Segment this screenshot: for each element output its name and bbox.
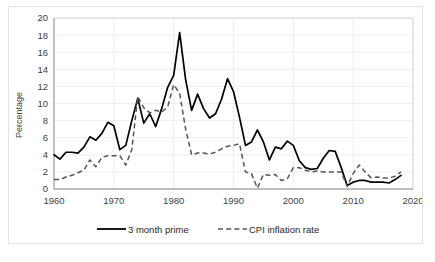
series-line-3-month-prime bbox=[54, 33, 401, 186]
chart-figure: 02468101214161820 1960197019801990200020… bbox=[0, 0, 435, 262]
y-axis-tick-labels: 02468101214161820 bbox=[37, 12, 48, 194]
y-tick-label: 4 bbox=[43, 149, 48, 160]
y-tick-label: 14 bbox=[37, 64, 48, 75]
series-line-cpi-inflation-rate bbox=[54, 85, 401, 188]
legend-label-cpi-inflation-rate: CPI inflation rate bbox=[249, 224, 319, 235]
chart-frame: 02468101214161820 1960197019801990200020… bbox=[8, 6, 423, 244]
y-tick-label: 12 bbox=[37, 81, 48, 92]
legend-label-3-month-prime: 3 month prime bbox=[128, 224, 189, 235]
y-tick-label: 20 bbox=[37, 12, 48, 23]
x-axis-tick-labels: 1960197019801990200020102020 bbox=[43, 195, 422, 206]
data-series-group bbox=[54, 33, 401, 189]
y-tick-label: 10 bbox=[37, 98, 48, 109]
y-tick-label: 18 bbox=[37, 30, 48, 41]
x-tick-label: 1990 bbox=[223, 195, 244, 206]
y-tick-label: 2 bbox=[43, 166, 48, 177]
x-tick-label: 1980 bbox=[163, 195, 184, 206]
y-tick-label: 6 bbox=[43, 132, 48, 143]
gridlines bbox=[54, 18, 413, 189]
x-tick-label: 1960 bbox=[43, 195, 64, 206]
y-tick-label: 8 bbox=[43, 115, 48, 126]
y-tick-label: 0 bbox=[43, 183, 48, 194]
chart-legend: 3 month prime CPI inflation rate bbox=[97, 224, 319, 235]
x-tick-label: 2020 bbox=[402, 195, 422, 206]
line-chart: 02468101214161820 1960197019801990200020… bbox=[9, 7, 422, 243]
x-tick-label: 2010 bbox=[343, 195, 364, 206]
x-tick-label: 1970 bbox=[103, 195, 124, 206]
y-tick-label: 16 bbox=[37, 47, 48, 58]
y-axis-title: Percentage bbox=[14, 92, 24, 138]
x-tick-label: 2000 bbox=[283, 195, 304, 206]
